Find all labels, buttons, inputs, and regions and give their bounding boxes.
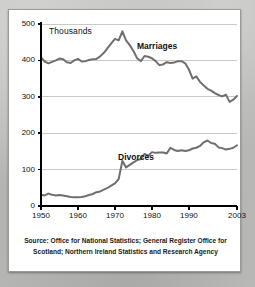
- x-tick-label-2003: 2003: [224, 211, 250, 220]
- x-tick-label-1970: 1970: [102, 211, 128, 220]
- series-label-divorces: Divorces: [118, 152, 154, 162]
- y-tick-label-200: 200: [13, 128, 35, 137]
- x-tick-label-1990: 1990: [176, 211, 202, 220]
- x-tick-label-1960: 1960: [65, 211, 91, 220]
- y-tick-label-500: 500: [13, 19, 35, 28]
- y-tick-label-0: 0: [13, 201, 35, 210]
- y-tick-label-300: 300: [13, 92, 35, 101]
- line-chart: [9, 10, 242, 224]
- series-label-marriages: Marriages: [137, 41, 177, 51]
- y-axis-unit-label: Thousands: [49, 26, 92, 36]
- series-paths: [41, 31, 237, 197]
- y-tick-label-400: 400: [13, 55, 35, 64]
- source-caption: Source: Office for National Statistics; …: [19, 236, 232, 258]
- y-tick-label-100: 100: [13, 165, 35, 174]
- axis-ticks: [38, 24, 238, 210]
- x-tick-label-1980: 1980: [139, 211, 165, 220]
- x-tick-label-1950: 1950: [28, 211, 54, 220]
- chart-card: Thousands Marriages Divorces 01002003004…: [8, 9, 241, 272]
- chart-plot-area: [9, 10, 242, 224]
